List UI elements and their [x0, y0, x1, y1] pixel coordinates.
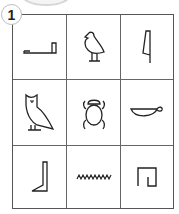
reed-shelter-icon: [136, 166, 158, 188]
reed-leaf-icon: [140, 29, 154, 65]
grid-cell-2-2[interactable]: [67, 80, 121, 146]
tethering-rope-icon: [22, 39, 58, 55]
exercise-number-badge: 1: [1, 4, 22, 25]
grid-cell-3-1[interactable]: [13, 146, 67, 208]
grid-cell-1-1[interactable]: [13, 15, 67, 80]
hieroglyph-grid: [12, 14, 174, 209]
scarab-beetle-icon: [80, 95, 108, 131]
foot-leg-icon: [29, 160, 51, 194]
grid-cell-3-3[interactable]: [121, 146, 173, 208]
grid-cell-2-1[interactable]: [13, 80, 67, 146]
grid-cell-1-2[interactable]: [67, 15, 121, 80]
decorative-arc: [22, 0, 70, 6]
owl-icon: [23, 93, 57, 133]
water-ripple-icon: [76, 173, 112, 181]
exercise-number: 1: [8, 7, 16, 23]
grid-cell-2-3[interactable]: [121, 80, 173, 146]
grid-cell-1-3[interactable]: [121, 15, 173, 80]
quail-chick-icon: [82, 30, 106, 64]
grid-cell-3-2[interactable]: [67, 146, 121, 208]
basket-with-handle-icon: [129, 105, 165, 121]
